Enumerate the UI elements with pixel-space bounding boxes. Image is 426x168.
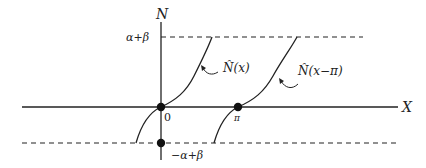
diagram-canvas: N X α+β −α+β 0 π N̂(x) N̂(x−π)	[0, 0, 426, 168]
leader-n-x	[203, 68, 218, 74]
lower-intercept-dot	[157, 139, 165, 147]
curve-n-x-minus-pi	[214, 37, 297, 143]
pi-dot	[234, 103, 242, 111]
n-axis-label: N	[155, 6, 169, 22]
lower-level-label: −α+β	[171, 149, 203, 162]
curve-label-n-x: N̂(x)	[222, 60, 250, 75]
pi-label: π	[233, 113, 241, 123]
curve-n-x	[136, 37, 212, 143]
x-axis-label: X	[401, 99, 413, 115]
origin-label: 0	[164, 111, 171, 124]
arrowhead-n-x-minus-pi-icon	[279, 78, 284, 84]
arrowhead-n-x-icon	[201, 65, 206, 71]
upper-level-label: α+β	[126, 31, 149, 44]
leader-n-x-minus-pi	[281, 81, 298, 88]
curve-label-n-x-minus-pi: N̂(x−π)	[297, 63, 343, 78]
origin-dot	[157, 103, 165, 111]
